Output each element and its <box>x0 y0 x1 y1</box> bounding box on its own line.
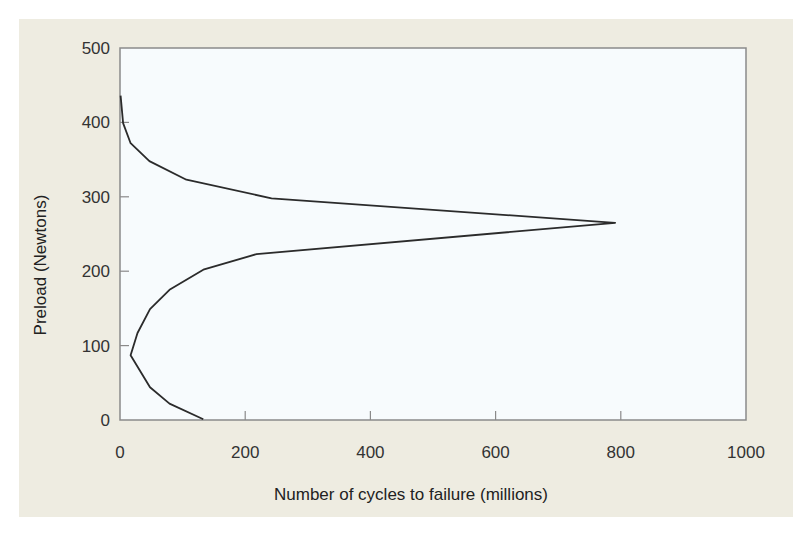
x-tick-label: 400 <box>356 443 384 462</box>
chart: 02004006008001000 0100200300400500 Numbe… <box>0 0 801 535</box>
x-tick-label: 800 <box>607 443 635 462</box>
x-axis-title: Number of cycles to failure (millions) <box>274 485 548 504</box>
y-tick-label: 0 <box>101 411 110 430</box>
y-axis-title: Preload (Newtons) <box>31 195 50 336</box>
x-tick-label: 0 <box>115 443 124 462</box>
y-tick-label: 500 <box>82 39 110 58</box>
y-tick-label: 400 <box>82 113 110 132</box>
x-axis-tick-labels: 02004006008001000 <box>115 443 765 462</box>
x-tick-label: 200 <box>231 443 259 462</box>
y-tick-label: 200 <box>82 262 110 281</box>
x-tick-label: 600 <box>481 443 509 462</box>
y-axis-tick-labels: 0100200300400500 <box>82 39 110 430</box>
x-tick-label: 1000 <box>727 443 765 462</box>
y-tick-label: 100 <box>82 337 110 356</box>
y-tick-label: 300 <box>82 188 110 207</box>
plot-area <box>120 48 746 420</box>
